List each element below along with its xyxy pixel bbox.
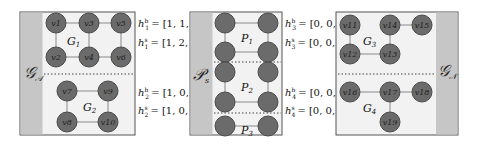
svg-text:v15: v15 <box>415 21 430 30</box>
svg-text:v13: v13 <box>383 50 398 59</box>
panel-gn: 𝒢𝒩 v11 v14 v15 v12 v13 G3 v16 v17 v18 v1… <box>336 12 459 135</box>
node-v19: v19 <box>380 112 400 132</box>
svg-text:v9: v9 <box>103 87 113 96</box>
ps-node <box>258 13 278 33</box>
svg-text:v11: v11 <box>343 21 358 30</box>
ps-node <box>258 42 278 62</box>
node-v3: v3 <box>79 13 99 33</box>
node-v17: v17 <box>380 82 400 102</box>
svg-text:v3: v3 <box>84 19 94 28</box>
ps-node <box>215 42 235 62</box>
svg-text:v1: v1 <box>51 19 61 28</box>
ps-node <box>215 116 235 136</box>
svg-text:v16: v16 <box>343 88 358 97</box>
svg-text:v6: v6 <box>116 53 126 62</box>
diagram-canvas: 𝒢𝒜 v1 v3 v5 v2 v4 v6 G1 v7 v9 v8 <box>0 0 477 144</box>
svg-text:v19: v19 <box>383 118 398 127</box>
svg-text:v2: v2 <box>51 53 61 62</box>
svg-text:v12: v12 <box>343 50 358 59</box>
ps-node <box>258 92 278 112</box>
svg-text:v5: v5 <box>116 19 126 28</box>
node-v15: v15 <box>412 15 432 35</box>
svg-text:v10: v10 <box>101 118 116 127</box>
node-v1: v1 <box>46 13 66 33</box>
svg-text:v17: v17 <box>383 88 399 97</box>
node-v10: v10 <box>98 112 118 132</box>
node-v11: v11 <box>340 15 360 35</box>
node-v6: v6 <box>111 47 131 67</box>
node-v9: v9 <box>98 81 118 101</box>
ps-node <box>215 62 235 82</box>
node-v13: v13 <box>380 44 400 64</box>
panel-ga: 𝒢𝒜 v1 v3 v5 v2 v4 v6 G1 v7 v9 v8 <box>20 12 135 135</box>
node-v2: v2 <box>46 47 66 67</box>
svg-text:v4: v4 <box>84 53 94 62</box>
svg-text:v18: v18 <box>415 88 430 97</box>
node-v4: v4 <box>79 47 99 67</box>
ps-node <box>258 116 278 136</box>
panel-ps: 𝒫s P1 P2 <box>190 12 282 138</box>
node-v5: v5 <box>111 13 131 33</box>
svg-text:v8: v8 <box>62 118 72 127</box>
diagram: 𝒢𝒜 v1 v3 v5 v2 v4 v6 G1 v7 v9 v8 <box>0 0 477 144</box>
ps-node <box>215 92 235 112</box>
ps-node <box>258 62 278 82</box>
node-v8: v8 <box>57 112 77 132</box>
node-v12: v12 <box>340 44 360 64</box>
svg-text:v7: v7 <box>62 87 73 96</box>
node-v14: v14 <box>380 15 400 35</box>
svg-text:v14: v14 <box>383 21 398 30</box>
node-v16: v16 <box>340 82 360 102</box>
node-v18: v18 <box>412 82 432 102</box>
node-v7: v7 <box>57 81 77 101</box>
ps-node <box>215 13 235 33</box>
